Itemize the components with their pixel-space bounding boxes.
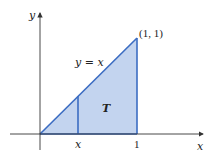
diagram-canvas: y x (1, 1) y = x T x 1 xyxy=(0,0,212,157)
x-tick-variable: x xyxy=(75,138,82,151)
region-label: T xyxy=(102,102,111,115)
x-axis-label: x xyxy=(197,140,204,153)
curve-label: y = x xyxy=(74,56,104,69)
x-tick-one: 1 xyxy=(134,138,140,150)
y-axis-label: y xyxy=(28,9,36,22)
point-label: (1, 1) xyxy=(139,27,163,40)
